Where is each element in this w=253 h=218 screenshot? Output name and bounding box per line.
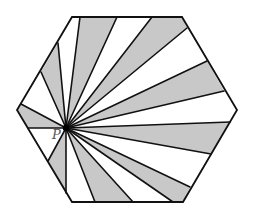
point-p-label: P: [51, 127, 61, 142]
shaded-regions: [17, 17, 237, 202]
point-p-marker: [63, 125, 69, 131]
hexagon-diagram: P: [0, 0, 253, 218]
